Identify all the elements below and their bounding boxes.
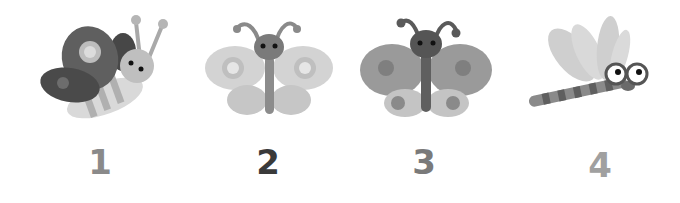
butterfly-icon (30, 0, 180, 140)
figure-label-2: 2 (248, 145, 288, 179)
butterfly-icon (195, 0, 345, 140)
butterfly-icon (350, 0, 500, 140)
figure-label-1: 1 (80, 145, 120, 179)
figure-label-4: 4 (580, 148, 620, 182)
figure-4: 4 (510, 0, 670, 203)
figure-3: 3 (350, 0, 500, 203)
figure-2: 2 (195, 0, 345, 203)
dragonfly-icon (510, 0, 670, 140)
figure-label-3: 3 (404, 145, 444, 179)
figure-1: 1 (30, 0, 180, 203)
